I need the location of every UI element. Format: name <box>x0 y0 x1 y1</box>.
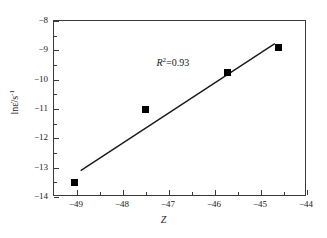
data-point-marker <box>71 179 78 186</box>
r-squared-annotation: R2=0.93 <box>157 56 190 68</box>
data-point-marker <box>224 69 231 76</box>
y-tick-minor <box>54 124 57 125</box>
y-tick-major <box>54 80 59 81</box>
x-tick-major <box>215 190 216 195</box>
x-tick-major <box>261 190 262 195</box>
data-point-marker <box>275 44 282 51</box>
y-tick-label: −12 <box>18 132 48 142</box>
x-tick-major <box>169 190 170 195</box>
x-tick-major <box>77 190 78 195</box>
plot-area <box>53 20 306 196</box>
x-tick-minor <box>192 192 193 195</box>
y-tick-major <box>54 21 59 22</box>
x-tick-major <box>123 190 124 195</box>
y-tick-major <box>54 50 59 51</box>
x-tick-label: −45 <box>240 199 280 209</box>
x-tick-label: −44 <box>286 199 326 209</box>
r-squared-value: =0.93 <box>166 58 189 69</box>
data-point-marker <box>142 106 149 113</box>
y-tick-label: −13 <box>18 162 48 172</box>
x-tick-minor <box>238 192 239 195</box>
x-tick-label: −46 <box>194 199 234 209</box>
y-tick-label: −10 <box>18 74 48 84</box>
y-tick-minor <box>54 65 57 66</box>
y-tick-label: −8 <box>18 15 48 25</box>
x-tick-minor <box>100 192 101 195</box>
y-tick-major <box>54 168 59 169</box>
chart-figure: −49−48−47−46−45−44−8−9−10−11−12−13−14 Z … <box>0 0 327 238</box>
x-tick-label: −47 <box>148 199 188 209</box>
x-tick-minor <box>284 192 285 195</box>
y-tick-minor <box>54 182 57 183</box>
y-tick-label: −9 <box>18 44 48 54</box>
y-axis-title-superscript: -1 <box>8 90 16 96</box>
y-tick-major <box>54 138 59 139</box>
x-tick-label: −48 <box>102 199 142 209</box>
fit-line <box>54 21 307 197</box>
y-tick-major <box>54 109 59 110</box>
y-tick-minor <box>54 94 57 95</box>
y-tick-label: −14 <box>18 191 48 201</box>
y-tick-minor <box>54 153 57 154</box>
y-tick-label: −11 <box>18 103 48 113</box>
y-axis-title: lnε̇/s-1 <box>8 52 20 152</box>
x-tick-label: −49 <box>56 199 96 209</box>
x-tick-minor <box>146 192 147 195</box>
y-tick-minor <box>54 36 57 37</box>
x-axis-title: Z <box>0 214 327 225</box>
y-axis-title-text: lnε̇/s <box>9 96 20 115</box>
x-tick-major <box>307 190 308 195</box>
y-tick-major <box>54 197 59 198</box>
